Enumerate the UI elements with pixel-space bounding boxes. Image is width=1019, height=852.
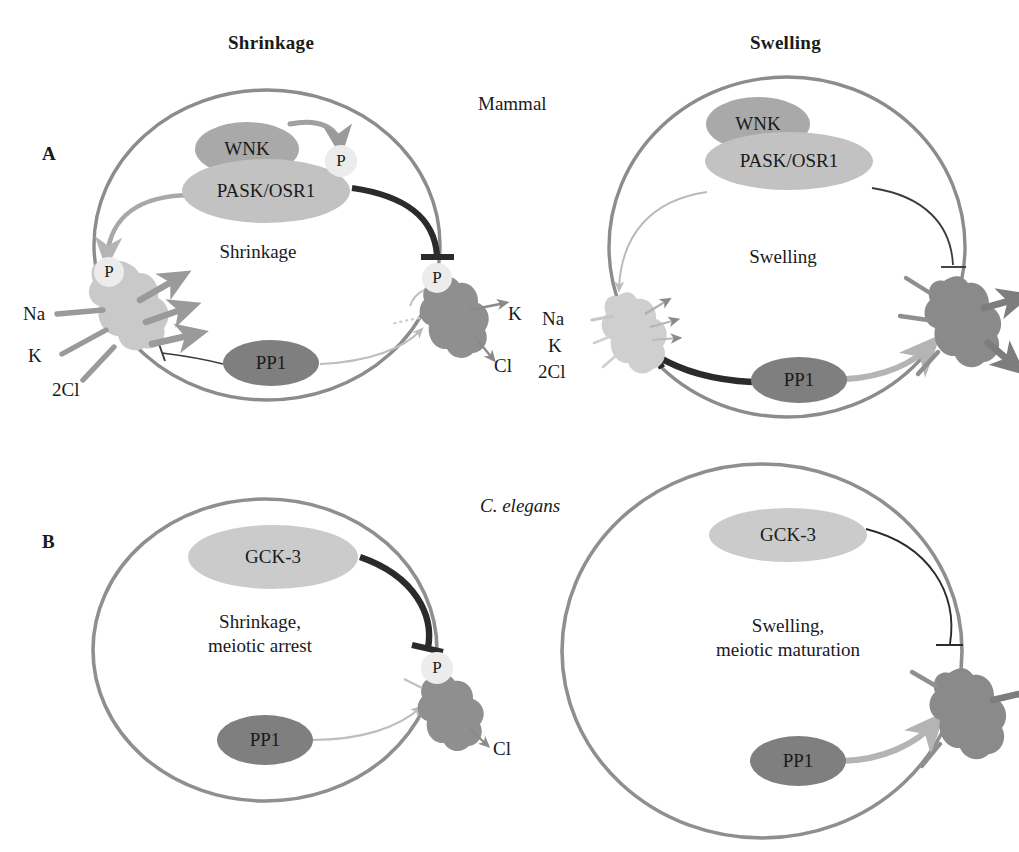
phosphatase-label-pp1: PP1: [256, 352, 287, 374]
kinase-label-pask-osr1: PASK/OSR1: [217, 180, 316, 202]
phospho-label-nkcc: P: [104, 262, 113, 282]
state-label-line1: Swelling,: [716, 614, 860, 638]
ion-label-k-efflux: K: [508, 303, 522, 325]
kinase-label-wnk: WNK: [224, 138, 269, 160]
kinase-label-gck3: GCK-3: [245, 546, 301, 568]
ion-label-cl-efflux: Cl: [494, 355, 512, 377]
ion-label-cl: Cl: [493, 738, 511, 760]
ion-label-2cl: 2Cl: [52, 379, 79, 401]
diagram-vectors: [0, 0, 1019, 852]
ion-label-k: K: [548, 335, 562, 357]
state-label-line2: meiotic maturation: [716, 638, 860, 662]
phosphatase-label-pp1: PP1: [783, 750, 814, 772]
kinase-label-gck3: GCK-3: [760, 524, 816, 546]
ion-label-na: Na: [542, 308, 564, 330]
state-label-swelling-meiotic-maturation: Swelling, meiotic maturation: [716, 614, 860, 662]
phospho-label-channel: P: [432, 658, 441, 678]
figure-canvas: Shrinkage Swelling Mammal C. elegans A B: [0, 0, 1019, 852]
ion-label-na: Na: [23, 303, 45, 325]
phosphatase-label-pp1: PP1: [784, 369, 815, 391]
phosphatase-label-pp1: PP1: [250, 729, 281, 751]
state-label-shrinkage-meiotic-arrest: Shrinkage, meiotic arrest: [208, 610, 312, 658]
phospho-label-pask: P: [336, 151, 345, 171]
kinase-label-pask-osr1: PASK/OSR1: [740, 150, 839, 172]
state-label-line2: meiotic arrest: [208, 634, 312, 658]
ion-label-2cl: 2Cl: [538, 361, 565, 383]
state-label-line1: Shrinkage,: [208, 610, 312, 634]
phospho-label-kcc: P: [432, 268, 441, 288]
state-label-swelling: Swelling: [749, 245, 817, 269]
kinase-label-wnk: WNK: [735, 113, 780, 135]
state-label-shrinkage: Shrinkage: [219, 240, 296, 264]
ion-label-k: K: [28, 345, 42, 367]
